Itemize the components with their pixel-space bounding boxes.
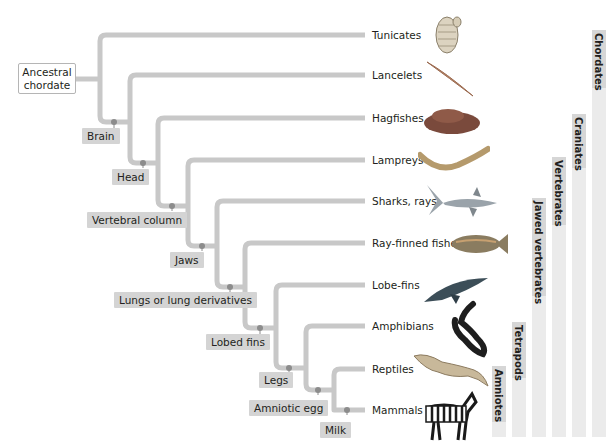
character-lobed-fins: Lobed fins xyxy=(206,334,270,350)
character-head: Head xyxy=(112,169,149,185)
clade-bar-tetrapods: Tetrapods xyxy=(512,322,526,437)
clade-label-tetrapods: Tetrapods xyxy=(513,325,524,381)
character-amniotic-egg: Amniotic egg xyxy=(249,400,328,416)
clade-bar-amniotes: Amniotes xyxy=(492,366,506,437)
clade-bar-jawed-vertebrates: Jawed vertebrates xyxy=(532,198,546,437)
character-brain: Brain xyxy=(82,128,120,144)
lancelet-illustration xyxy=(425,60,475,100)
clade-label-vertebrates: Vertebrates xyxy=(553,160,564,227)
taxon-ray-finned-fishes: Ray-finned fishes xyxy=(372,237,462,249)
clade-bar-chordates: Chordates xyxy=(592,30,606,437)
clade-label-amniotes: Amniotes xyxy=(493,369,504,422)
ray-finned-fish-illustration xyxy=(450,230,510,258)
taxon-tunicates: Tunicates xyxy=(372,29,421,41)
root-label-line2: chordate xyxy=(24,79,71,91)
character-legs: Legs xyxy=(259,372,293,388)
taxon-mammals: Mammals xyxy=(372,404,423,416)
character-lungs: Lungs or lung derivatives xyxy=(114,292,257,308)
shark-illustration xyxy=(425,183,500,219)
taxon-lancelets: Lancelets xyxy=(372,69,422,81)
root-label-line1: Ancestral xyxy=(22,66,71,78)
clade-bar-vertebrates: Vertebrates xyxy=(552,157,566,437)
taxon-lampreys: Lampreys xyxy=(372,154,423,166)
hagfish-illustration xyxy=(422,105,484,137)
root-ancestral-chordate: Ancestral chordate xyxy=(18,63,76,94)
taxon-reptiles: Reptiles xyxy=(372,363,414,375)
character-milk: Milk xyxy=(320,422,351,438)
taxon-hagfishes: Hagfishes xyxy=(372,112,424,124)
clade-bar-craniates: Craniates xyxy=(572,114,586,437)
clade-label-chordates: Chordates xyxy=(593,33,604,91)
lamprey-illustration xyxy=(418,145,490,175)
reptile-illustration xyxy=(412,350,492,388)
mammal-zebra-illustration xyxy=(420,390,478,442)
clade-label-jawed-vertebrates: Jawed vertebrates xyxy=(533,201,544,304)
taxon-amphibians: Amphibians xyxy=(372,320,434,332)
clade-label-craniates: Craniates xyxy=(573,117,584,171)
character-vertebral-column: Vertebral column xyxy=(87,212,187,228)
taxon-lobe-fins: Lobe-fins xyxy=(372,279,420,291)
character-jaws: Jaws xyxy=(170,252,204,268)
tunicate-illustration xyxy=(430,10,470,58)
